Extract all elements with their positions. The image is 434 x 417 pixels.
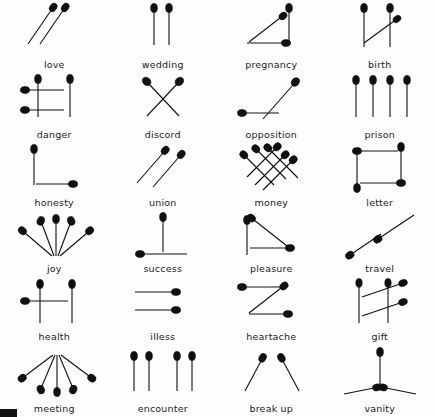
symbol-label: encounter: [138, 403, 188, 417]
symbol-art-love: [0, 0, 109, 59]
symbol-cell-break-up[interactable]: break up: [217, 345, 326, 417]
symbol-cell-pleasure[interactable]: pleasure: [217, 211, 326, 277]
symbol-cell-wedding[interactable]: wedding: [109, 0, 218, 73]
symbol-art-pleasure: [217, 207, 326, 263]
symbol-cell-gift[interactable]: gift: [326, 277, 434, 345]
symbol-art-vanity: [326, 343, 434, 403]
symbol-art-illess: [109, 273, 218, 331]
symbol-cell-honesty[interactable]: honesty: [0, 143, 109, 211]
symbol-art-danger: [0, 69, 109, 129]
symbol-label: vanity: [364, 403, 395, 417]
matchstick-chart: love wedding: [0, 0, 434, 417]
symbol-art-discord: [109, 69, 218, 129]
symbol-cell-opposition[interactable]: opposition: [217, 73, 326, 143]
symbol-cell-money[interactable]: money: [217, 143, 326, 211]
symbol-cell-union[interactable]: union: [109, 143, 218, 211]
symbol-cell-vanity[interactable]: vanity: [326, 345, 434, 417]
symbol-art-union: [109, 139, 218, 197]
symbol-art-letter: [326, 139, 434, 197]
symbol-art-health: [0, 273, 109, 331]
symbol-cell-joy[interactable]: joy: [0, 211, 109, 277]
symbol-cell-discord[interactable]: discord: [109, 73, 218, 143]
corner-mark: [0, 409, 17, 417]
symbol-cell-letter[interactable]: letter: [326, 143, 434, 211]
symbol-art-encounter: [109, 343, 218, 403]
symbol-art-money: [217, 139, 326, 197]
symbol-cell-illess[interactable]: illess: [109, 277, 218, 345]
symbol-art-prison: [326, 69, 434, 129]
symbol-cell-prison[interactable]: prison: [326, 73, 434, 143]
symbol-cell-pregnancy[interactable]: pregnancy: [217, 0, 326, 73]
symbol-grid: love wedding: [0, 0, 434, 417]
symbol-cell-success[interactable]: success: [109, 211, 218, 277]
symbol-cell-encounter[interactable]: encounter: [109, 345, 218, 417]
symbol-art-birth: [326, 0, 434, 59]
symbol-art-meeting: [0, 343, 109, 403]
symbol-cell-love[interactable]: love: [0, 0, 109, 73]
symbol-art-wedding: [109, 0, 218, 59]
symbol-art-honesty: [0, 139, 109, 197]
symbol-cell-birth[interactable]: birth: [326, 0, 434, 73]
symbol-label: meeting: [34, 403, 75, 417]
symbol-art-gift: [326, 273, 434, 331]
symbol-art-travel: [326, 207, 434, 263]
symbol-cell-travel[interactable]: travel: [326, 211, 434, 277]
symbol-cell-danger[interactable]: danger: [0, 73, 109, 143]
symbol-cell-heartache[interactable]: heartache: [217, 277, 326, 345]
symbol-art-opposition: [217, 69, 326, 129]
symbol-art-heartache: [217, 273, 326, 331]
symbol-art-pregnancy: [217, 0, 326, 59]
symbol-art-break-up: [217, 343, 326, 403]
symbol-cell-meeting[interactable]: meeting: [0, 345, 109, 417]
symbol-cell-health[interactable]: health: [0, 277, 109, 345]
symbol-label: break up: [249, 403, 293, 417]
symbol-art-success: [109, 207, 218, 263]
symbol-art-joy: [0, 207, 109, 263]
